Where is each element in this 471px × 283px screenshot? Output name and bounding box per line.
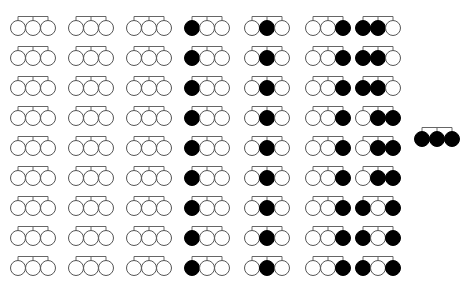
bracket-line [252, 107, 282, 111]
empty-circle [245, 81, 260, 96]
empty-circle [306, 261, 321, 276]
empty-circle [26, 21, 41, 36]
filled-circle [386, 111, 401, 126]
empty-circle [215, 51, 230, 66]
empty-circle [200, 141, 215, 156]
bracket-line [18, 107, 48, 111]
empty-circle [275, 231, 290, 246]
circle-group-c1-r5 [11, 137, 56, 156]
empty-circle [142, 81, 157, 96]
empty-circle [84, 141, 99, 156]
circle-group-c3-r1 [127, 17, 172, 36]
bracket-line [252, 227, 282, 231]
empty-circle [275, 21, 290, 36]
filled-circle [371, 111, 386, 126]
empty-circle [69, 111, 84, 126]
empty-circle [386, 81, 401, 96]
circle-group-c7-r6 [356, 167, 401, 186]
empty-circle [11, 81, 26, 96]
empty-circle [157, 261, 172, 276]
circle-group-c6-r1 [306, 17, 351, 36]
bracket-line [313, 197, 343, 201]
circle-group-c3-r6 [127, 167, 172, 186]
bracket-line [18, 257, 48, 261]
bracket-line [363, 227, 393, 231]
empty-circle [142, 111, 157, 126]
empty-circle [84, 21, 99, 36]
bracket-line [252, 197, 282, 201]
filled-circle [386, 171, 401, 186]
empty-circle [41, 81, 56, 96]
filled-circle [185, 141, 200, 156]
bracket-line [363, 47, 393, 51]
empty-circle [26, 51, 41, 66]
empty-circle [371, 201, 386, 216]
empty-circle [69, 171, 84, 186]
bracket-line [134, 137, 164, 141]
bracket-line [76, 77, 106, 81]
empty-circle [321, 201, 336, 216]
empty-circle [84, 201, 99, 216]
empty-circle [99, 141, 114, 156]
empty-circle [306, 111, 321, 126]
circle-group-c5-r6 [245, 167, 290, 186]
filled-circle [386, 201, 401, 216]
filled-circle [356, 21, 371, 36]
bracket-line [76, 107, 106, 111]
empty-circle [99, 51, 114, 66]
empty-circle [245, 231, 260, 246]
bracket-line [252, 47, 282, 51]
empty-circle [41, 171, 56, 186]
filled-circle [386, 261, 401, 276]
filled-circle [260, 51, 275, 66]
filled-circle [260, 111, 275, 126]
filled-circle [260, 81, 275, 96]
circle-group-c2-r8 [69, 227, 114, 246]
bracket-line [192, 167, 222, 171]
circle-group-c7-r5 [356, 137, 401, 156]
filled-circle [260, 201, 275, 216]
circle-group-c6-r3 [306, 77, 351, 96]
circle-group-c3-r2 [127, 47, 172, 66]
filled-circle [356, 201, 371, 216]
empty-circle [215, 21, 230, 36]
bracket-line [313, 17, 343, 21]
bracket-line [134, 197, 164, 201]
empty-circle [142, 231, 157, 246]
empty-circle [245, 201, 260, 216]
empty-circle [215, 81, 230, 96]
empty-circle [26, 231, 41, 246]
empty-circle [11, 171, 26, 186]
bracket-line [134, 77, 164, 81]
bracket-line [252, 137, 282, 141]
circle-group-c5-r1 [245, 17, 290, 36]
circle-group-c1-r3 [11, 77, 56, 96]
circle-group-c6-r7 [306, 197, 351, 216]
empty-circle [356, 171, 371, 186]
bracket-line [18, 77, 48, 81]
empty-circle [356, 141, 371, 156]
circle-group-c4-r2 [185, 47, 230, 66]
bracket-line [192, 227, 222, 231]
filled-circle [356, 261, 371, 276]
empty-circle [157, 141, 172, 156]
empty-circle [127, 201, 142, 216]
empty-circle [215, 111, 230, 126]
circle-group-c2-r7 [69, 197, 114, 216]
empty-circle [157, 231, 172, 246]
empty-circle [157, 21, 172, 36]
empty-circle [200, 171, 215, 186]
empty-circle [306, 81, 321, 96]
bracket-line [313, 227, 343, 231]
empty-circle [245, 171, 260, 186]
bracket-line [18, 167, 48, 171]
empty-circle [69, 81, 84, 96]
empty-circle [26, 81, 41, 96]
empty-circle [245, 51, 260, 66]
bracket-line [76, 47, 106, 51]
empty-circle [127, 51, 142, 66]
circle-group-c7-r7 [356, 197, 401, 216]
filled-circle [185, 201, 200, 216]
empty-circle [69, 201, 84, 216]
filled-circle [185, 231, 200, 246]
